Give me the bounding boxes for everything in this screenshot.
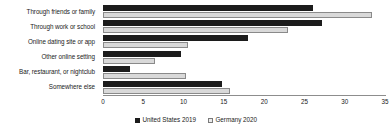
bar-group: [103, 35, 385, 50]
x-tick-label: 25: [301, 97, 308, 106]
bar-germany-2020: [103, 88, 230, 94]
legend-label: Germany 2020: [215, 116, 257, 124]
bar-united-states-2019: [103, 81, 222, 87]
bar-germany-2020: [103, 73, 186, 79]
bar-germany-2020: [103, 42, 188, 48]
legend-item[interactable]: Germany 2020: [208, 116, 257, 124]
x-tick-label: 35: [381, 97, 388, 106]
category-label: Online dating site or app: [0, 38, 95, 45]
x-axis-tick-labels: 05101520253035: [0, 97, 392, 109]
bar-chart: Through friends or familyThrough work or…: [0, 0, 392, 131]
bar-united-states-2019: [103, 5, 313, 11]
chart-legend: United States 2019Germany 2020: [0, 114, 392, 126]
bar-united-states-2019: [103, 51, 181, 57]
x-tick-label: 0: [101, 97, 105, 106]
category-label: Somewhere else: [0, 83, 95, 90]
legend-swatch-icon: [135, 118, 140, 123]
legend-swatch-icon: [208, 118, 213, 123]
plot-area: [103, 4, 385, 95]
x-tick-label: 20: [261, 97, 268, 106]
category-axis: Through friends or familyThrough work or…: [0, 4, 98, 95]
bar-germany-2020: [103, 12, 372, 18]
bar-group: [103, 51, 385, 66]
bar-united-states-2019: [103, 66, 130, 72]
legend-item[interactable]: United States 2019: [135, 116, 196, 124]
category-label: Through work or school: [0, 23, 95, 30]
bar-group: [103, 66, 385, 81]
x-tick-label: 15: [220, 97, 227, 106]
legend-label: United States 2019: [142, 116, 196, 124]
x-tick-label: 10: [180, 97, 187, 106]
x-tick-label: 5: [142, 97, 146, 106]
bar-group: [103, 81, 385, 96]
bar-group: [103, 20, 385, 35]
x-tick-label: 30: [341, 97, 348, 106]
category-label: Other online setting: [0, 53, 95, 60]
bar-group: [103, 5, 385, 20]
x-axis-line: [103, 95, 386, 96]
category-label: Through friends or family: [0, 8, 95, 15]
bar-germany-2020: [103, 58, 155, 64]
bar-germany-2020: [103, 27, 288, 33]
category-label: Bar, restaurant, or nightclub: [0, 68, 95, 75]
bar-united-states-2019: [103, 35, 248, 41]
bar-united-states-2019: [103, 20, 322, 26]
